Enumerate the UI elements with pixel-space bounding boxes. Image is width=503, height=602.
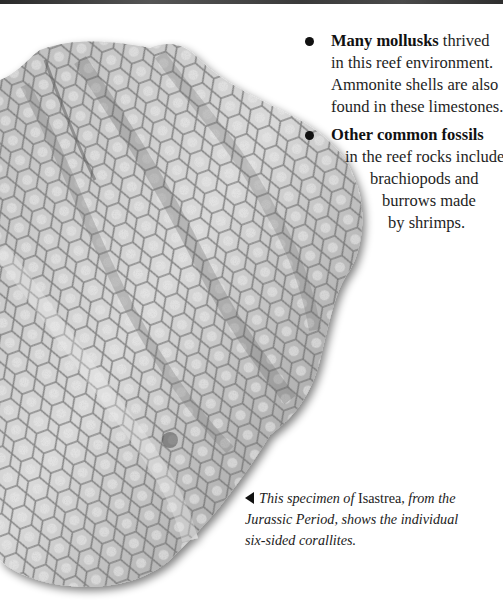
bullet-heading: Other common fossils	[313, 124, 503, 146]
genus-name: Isastrea	[358, 490, 401, 506]
specimen-caption: This specimen of Isastrea, from the Jura…	[245, 488, 503, 551]
bullet-dot-icon	[305, 131, 314, 140]
fact-bullets: Many mollusks thrived in this reef envir…	[313, 30, 503, 240]
top-photo-strip	[0, 0, 503, 4]
bullet-mollusks: Many mollusks thrived in this reef envir…	[313, 30, 503, 118]
pointer-left-icon	[245, 492, 254, 504]
bullet-other-fossils: Other common fossils in the reef rocks i…	[313, 124, 503, 234]
bullet-dot-icon	[305, 37, 314, 46]
bullet-heading: Many mollusks	[331, 31, 439, 50]
